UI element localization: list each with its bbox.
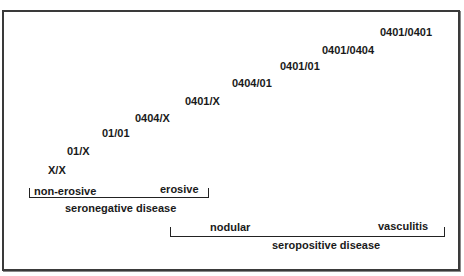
erosive-label: erosive [160,183,199,195]
vasculitis-label: vasculitis [378,220,428,232]
genotype-label: X/X [48,164,66,176]
genotype-label: 01/01 [102,127,130,139]
genotype-label: 0401/01 [280,60,320,72]
nodular-label: nodular [210,221,250,233]
genotype-label: 0404/X [135,112,170,124]
genotype-label: 0401/0401 [380,26,432,38]
seronegative-disease-label: seronegative disease [65,202,176,214]
seropositive-disease-label: seropositive disease [272,239,380,251]
non-erosive-label: non-erosive [34,185,96,197]
genotype-label: 01/X [67,145,90,157]
genotype-label: 0404/01 [232,77,272,89]
genotype-label: 0401/X [185,95,220,107]
genotype-label: 0401/0404 [322,44,374,56]
